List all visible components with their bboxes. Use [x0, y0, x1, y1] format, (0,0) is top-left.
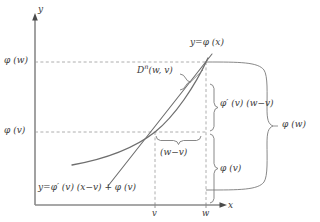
y-axis-label: y	[38, 5, 43, 14]
brace-delta-x	[156, 136, 201, 145]
brace-label-delta-x: (w−v)	[160, 148, 187, 157]
gap-label-dn-args: (w, v)	[148, 65, 172, 75]
curve-label-phi-x: y=φ (x)	[190, 38, 224, 47]
y-tick-label-phi-v: φ (v)	[4, 126, 25, 135]
x-axis-arrow-icon	[220, 202, 228, 208]
brace-label-phi-v: φ (v)	[220, 164, 241, 173]
brace-label-slope-times-dx: φ′ (v) (w−v)	[220, 99, 274, 108]
figure-convexity-diagram: y x φ (w) φ (v) v w y=φ (x) y=φ′ (v) (x−…	[0, 0, 320, 222]
tangent-line-label: y=φ′ (v) (x−v) + φ (v)	[38, 183, 136, 192]
x-tick-label-w: w	[202, 209, 209, 218]
gap-label-dn: Dn(w, v)	[137, 64, 173, 75]
x-tick-label-v: v	[152, 209, 157, 218]
y-tick-label-phi-w: φ (w)	[4, 56, 28, 65]
brace-phi-v	[210, 134, 218, 203]
brace-slope-dx	[210, 84, 218, 131]
y-axis-arrow-icon	[32, 13, 38, 21]
x-axis-label: x	[228, 201, 233, 210]
brace-label-phi-w-total: φ (w)	[282, 120, 306, 129]
